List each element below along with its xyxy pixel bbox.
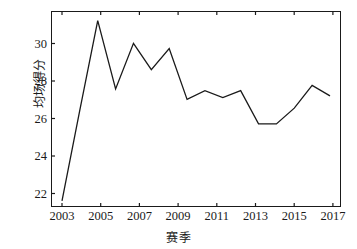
x-axis: 2003 2005 2007 2009 2011 2013 2015 2017 xyxy=(0,210,357,226)
x-tick-label: 2007 xyxy=(117,210,161,224)
x-tick-label: 2013 xyxy=(234,210,278,224)
x-tick-label: 2003 xyxy=(40,210,84,224)
y-tick-label: 24 xyxy=(3,150,47,163)
chart-figure: 30 28 26 24 22 均场得分 xyxy=(0,0,357,249)
x-tick-label: 2017 xyxy=(311,210,355,224)
y-tick-marks xyxy=(51,44,55,194)
x-tick-label: 2015 xyxy=(272,210,316,224)
line-series-chart xyxy=(51,11,341,207)
x-tick-label: 2009 xyxy=(156,210,200,224)
data-line xyxy=(62,21,330,201)
x-axis-title: 赛季 xyxy=(0,228,357,246)
y-axis-title: 均场得分 xyxy=(30,38,48,128)
y-tick-label: 22 xyxy=(3,187,47,200)
x-tick-label: 2005 xyxy=(79,210,123,224)
x-tick-label: 2011 xyxy=(195,210,239,224)
